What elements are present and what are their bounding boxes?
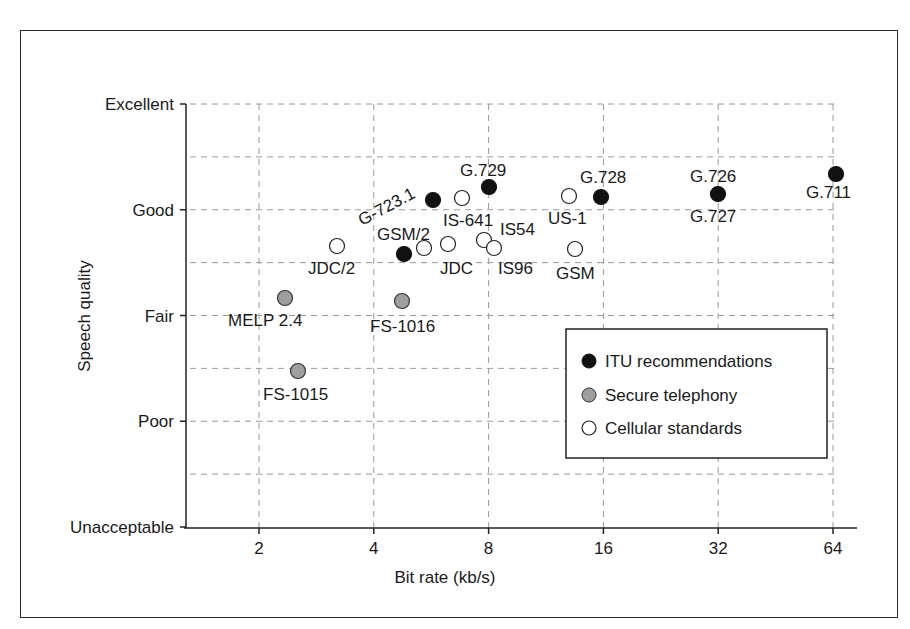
legend-item-cellular: Cellular standards: [582, 419, 742, 438]
point-label: G-723.1: [355, 184, 418, 230]
point-label: FS-1015: [263, 385, 328, 404]
secure-point-marker: [291, 364, 306, 379]
legend: ITU recommendations Secure telephony Cel…: [566, 329, 827, 458]
point-label: US-1: [548, 209, 587, 228]
itu-point-marker: [594, 190, 609, 205]
point-label: MELP 2.4: [228, 311, 302, 330]
legend-label: Cellular standards: [605, 419, 742, 438]
cellular-point-marker: [455, 191, 470, 206]
y-tick-label: Fair: [145, 307, 175, 326]
filled-circle-icon: [582, 354, 596, 368]
point-label: JDC: [440, 259, 473, 278]
cellular-point-marker: [568, 242, 583, 257]
itu-point-marker: [482, 180, 497, 195]
cellular-point-marker: [330, 239, 345, 254]
x-axis-ticks: 248163264: [254, 528, 842, 558]
point-label: GSM/2: [377, 225, 430, 244]
y-tick-label: Poor: [138, 412, 174, 431]
x-tick-label: 2: [254, 539, 263, 558]
secure-point-marker: [395, 294, 410, 309]
x-tick-label: 4: [369, 539, 378, 558]
point-label: G.727: [690, 207, 736, 226]
y-tick-label: Excellent: [105, 95, 174, 114]
point-label: FS-1016: [370, 317, 435, 336]
itu-point-marker: [426, 193, 441, 208]
legend-label: Secure telephony: [605, 386, 738, 405]
y-tick-label: Good: [132, 201, 174, 220]
x-tick-label: 8: [484, 539, 493, 558]
y-tick-label: Unacceptable: [70, 518, 174, 537]
cellular-point-marker: [487, 241, 502, 256]
x-tick-label: 64: [824, 539, 843, 558]
point-label: JDC/2: [308, 259, 355, 278]
point-label: G.728: [580, 168, 626, 187]
x-axis-title: Bit rate (kb/s): [394, 568, 495, 587]
cellular-point-marker: [562, 189, 577, 204]
legend-item-itu: ITU recommendations: [582, 352, 772, 371]
itu-point-marker: [829, 167, 844, 182]
point-label: IS54: [500, 220, 535, 239]
legend-item-secure: Secure telephony: [582, 386, 738, 405]
cellular-point-marker: [441, 237, 456, 252]
point-label: IS-641: [443, 211, 493, 230]
legend-label: ITU recommendations: [605, 352, 772, 371]
gray-circle-icon: [582, 388, 596, 402]
x-tick-label: 32: [709, 539, 728, 558]
point-label: G.729: [460, 161, 506, 180]
itu-point-marker: [397, 247, 412, 262]
itu-point-marker: [711, 187, 726, 202]
point-label: G.711: [806, 183, 851, 202]
open-circle-icon: [582, 421, 596, 435]
scatter-chart: UnacceptablePoorFairGoodExcellent 248163…: [0, 0, 910, 629]
x-tick-label: 16: [594, 539, 613, 558]
secure-point-marker: [278, 291, 293, 306]
y-axis-title: Speech quality: [75, 260, 94, 372]
point-label: IS96: [498, 259, 533, 278]
point-label: G.726: [690, 167, 736, 186]
point-label: GSM: [556, 264, 595, 283]
